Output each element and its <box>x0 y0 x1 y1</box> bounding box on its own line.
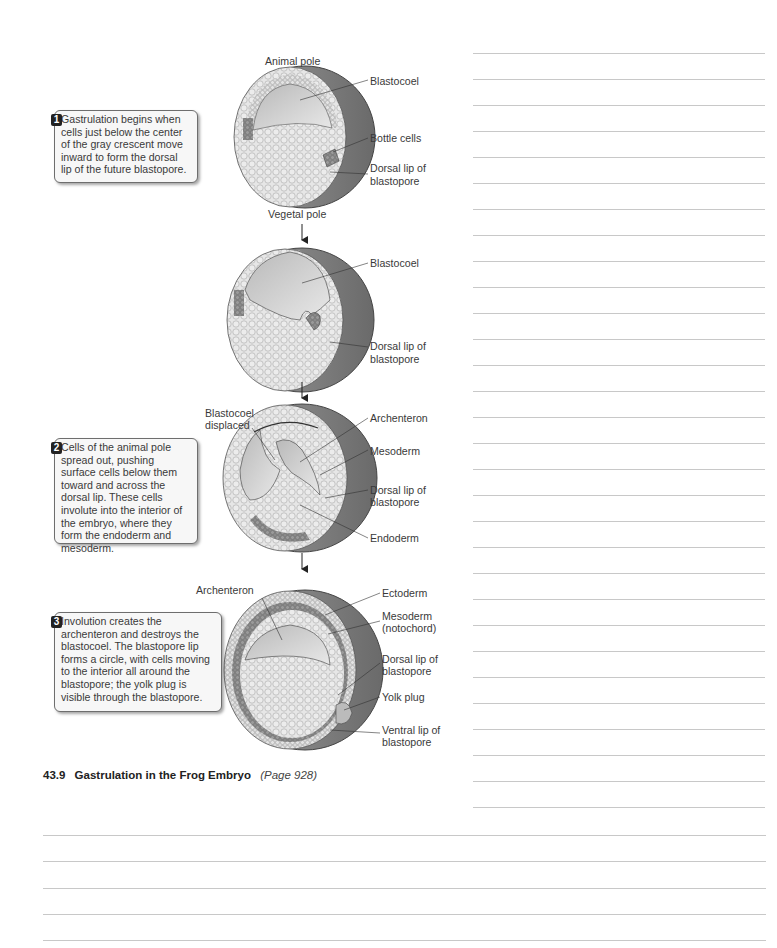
embryo-stage-4 <box>224 590 383 750</box>
embryo-stage-1 <box>234 66 375 208</box>
label-blastocoel-1: Blastocoel <box>370 75 419 88</box>
label-endoderm-3: Endoderm <box>370 532 419 545</box>
figure-page-ref: (Page 928) <box>260 769 317 781</box>
label-mesoderm-3: Mesoderm <box>370 445 420 458</box>
label-dorsal-lip-3b: blastopore <box>370 496 419 509</box>
label-ventral-lip-a: Ventral lip of <box>382 724 440 737</box>
callout-step-1: 1 Gastrulation begins when cells just be… <box>54 110 198 183</box>
callout-text: Gastrulation begins when cells just belo… <box>61 113 191 176</box>
label-animal-pole: Animal pole <box>265 55 320 68</box>
label-dorsal-lip-3a: Dorsal lip of <box>370 484 426 497</box>
label-dorsal-lip-4b: blastopore <box>382 665 431 678</box>
label-dorsal-lip-1a: Dorsal lip of <box>370 162 426 175</box>
label-dorsal-lip-1b: blastopore <box>370 175 419 188</box>
label-yolk-plug: Yolk plug <box>382 691 425 704</box>
step-number-badge: 1 <box>51 114 62 126</box>
callout-text: Cells of the animal pole spread out, pus… <box>61 441 191 554</box>
figure-caption: 43.9 Gastrulation in the Frog Embryo (Pa… <box>43 769 317 781</box>
label-dorsal-lip-4a: Dorsal lip of <box>382 653 438 666</box>
callout-step-3: 3 Involution creates the archenteron and… <box>54 612 222 712</box>
label-dorsal-lip-2b: blastopore <box>370 353 419 366</box>
label-archenteron-3: Archenteron <box>370 412 428 425</box>
step-number-badge: 3 <box>51 616 62 628</box>
label-blastocoel-displaced-b: displaced <box>205 419 250 432</box>
label-blastocoel-displaced-a: Blastocoel <box>205 407 254 420</box>
step-number-badge: 2 <box>51 442 62 454</box>
figure-number: 43.9 <box>43 769 65 781</box>
callout-step-2: 2 Cells of the animal pole spread out, p… <box>54 438 198 544</box>
label-mesoderm-4a: Mesoderm <box>382 610 432 623</box>
label-bottle-cells: Bottle cells <box>370 132 421 145</box>
callout-text: Involution creates the archenteron and d… <box>61 615 215 703</box>
label-dorsal-lip-2a: Dorsal lip of <box>370 340 426 353</box>
embryo-stage-2 <box>227 248 374 392</box>
label-vegetal-pole: Vegetal pole <box>268 208 326 221</box>
label-blastocoel-2: Blastocoel <box>370 257 419 270</box>
figure-title: Gastrulation in the Frog Embryo <box>75 769 251 781</box>
label-ectoderm: Ectoderm <box>382 587 427 600</box>
label-ventral-lip-b: blastopore <box>382 736 431 749</box>
label-archenteron-4: Archenteron <box>196 584 254 597</box>
label-mesoderm-4b: (notochord) <box>382 622 436 635</box>
